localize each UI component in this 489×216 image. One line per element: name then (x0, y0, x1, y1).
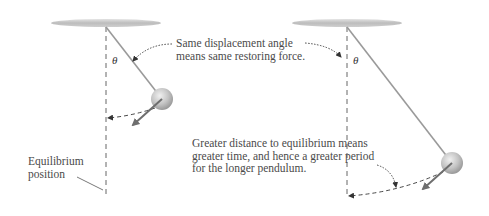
left-theta-label: θ (112, 54, 117, 67)
right-theta-label: θ (353, 54, 358, 67)
left-ceiling (51, 19, 161, 27)
equilibrium-line-1: Equilibrium (28, 155, 84, 168)
callout-arrow-right-angle (305, 43, 341, 57)
left-force-arrow (133, 99, 162, 125)
pendulum-diagram (0, 0, 489, 216)
same-angle-line-1: Same displacement angle (176, 37, 305, 50)
callout-arrow-period (377, 165, 396, 187)
equilibrium-position-label: Equilibrium position (28, 155, 84, 180)
right-force-arrow (423, 163, 452, 189)
same-angle-line-2: means same restoring force. (176, 50, 305, 63)
greater-distance-line-1: Greater distance to equilibrium means (192, 137, 374, 150)
greater-distance-annotation: Greater distance to equilibrium means gr… (192, 137, 374, 175)
right-ceiling (292, 19, 402, 27)
same-angle-annotation: Same displacement angle means same resto… (176, 37, 305, 62)
callout-arrow-left-angle (133, 44, 172, 61)
greater-distance-line-2: greater time, and hence a greater period (192, 150, 374, 163)
equilibrium-line-2: position (28, 168, 84, 181)
greater-distance-line-3: for the longer pendulum. (192, 162, 374, 175)
left-swing-arc (108, 108, 155, 118)
